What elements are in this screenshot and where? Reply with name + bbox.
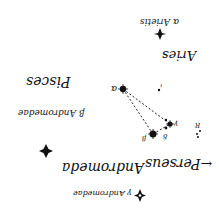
label-andromeda: Andromeda: [62, 161, 144, 175]
label-alpha: α: [111, 84, 117, 93]
perseus-arrow: ←: [200, 156, 212, 172]
label-beta-andromedae: β Andromedae: [18, 108, 84, 117]
label-aries: Aries: [162, 49, 196, 62]
label-alpha-arietis: α Arietis: [140, 17, 179, 26]
label-iota: ι: [160, 83, 162, 89]
star-chart: α Arietis Aries Pisces α ι β δ γ R β And…: [0, 0, 219, 217]
label-delta: δ: [163, 132, 167, 139]
perseus-text: Perseus: [145, 156, 200, 172]
label-gamma: γ: [174, 120, 178, 127]
label-perseus: ←Perseus: [145, 157, 212, 171]
star-alpha-arietis: [154, 28, 166, 40]
star-beta-andromedae: [39, 144, 53, 158]
label-r: R: [195, 121, 200, 128]
label-gamma-andromedae: γ Andromedae: [73, 189, 132, 197]
label-pisces: Pisces: [26, 75, 70, 89]
label-beta: β: [142, 134, 146, 141]
star-gamma-andromedae: [134, 189, 146, 202]
